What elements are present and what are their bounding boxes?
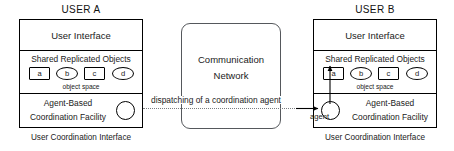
user-a-object-d[interactable]: d [112,67,134,80]
user-a-object-a[interactable]: a [29,67,50,80]
user-b-object-a[interactable]: a [323,67,344,80]
user-b-facility-line1: Agent-Based [342,99,438,107]
user-a-object-c[interactable]: c [84,67,105,80]
user-a-caption: User Coordination Interface [19,134,143,142]
user-b-object-d[interactable]: d [406,67,428,80]
user-a-facility-line2: Coordination Facility [20,113,116,121]
user-a-ui-label: User Interface [20,31,142,41]
user-b-title: USER B [313,5,437,15]
user-a-object-space-label: object space [20,84,142,91]
user-b-facility-line2: Coordination Facility [342,113,438,121]
user-b-caption: User Coordination Interface [313,134,437,142]
user-a-facility-line1: Agent-Based [20,99,116,107]
user-a-title: USER A [19,5,143,15]
dispatch-dotted-line [143,108,313,109]
communication-network-box: Communication Network [181,23,281,129]
user-b-panel: User Interface Shared Replicated Objects… [313,19,437,128]
user-a-ui-row: User Interface [20,20,142,50]
user-a-facility-row: Agent-Based Coordination Facility [20,93,142,127]
dispatch-label: dispatching of a coordination agent [150,96,282,104]
user-b-object-c[interactable]: c [378,67,399,80]
user-b-object-space-label: object space [314,84,436,91]
user-a-object-b[interactable]: b [56,67,78,80]
user-a-objects-row: Shared Replicated Objects a b c d object… [20,50,142,93]
communication-network-line1: Communication [182,52,280,68]
user-b-agent-label: agent [310,113,329,121]
user-a-agent-circle[interactable] [116,101,135,120]
user-b-facility-row: Agent-Based Coordination Facility [314,93,436,127]
user-b-ui-row: User Interface [314,20,436,50]
user-b-ui-label: User Interface [314,31,436,41]
communication-network-line2: Network [182,68,280,84]
user-a-shared-objects-label: Shared Replicated Objects [20,55,142,63]
user-a-panel: User Interface Shared Replicated Objects… [19,19,143,128]
user-b-object-b[interactable]: b [350,67,372,80]
user-b-objects-row: Shared Replicated Objects a b c d object… [314,50,436,93]
user-b-shared-objects-label: Shared Replicated Objects [314,55,436,63]
diagram-canvas: USER A User Interface Shared Replicated … [0,0,454,151]
